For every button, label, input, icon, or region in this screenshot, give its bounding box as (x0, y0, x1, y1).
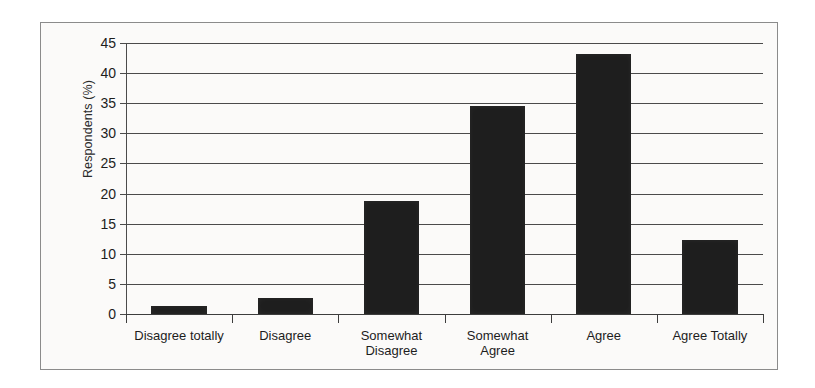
y-axis-title: Respondents (%) (81, 49, 101, 209)
y-axis-tick-label: 0 (108, 307, 116, 321)
y-axis-tick-label: 15 (100, 217, 116, 231)
x-axis-tick-label: Somewhat Disagree (338, 328, 444, 359)
bar (258, 298, 313, 314)
plot-area: 051015202530354045 Disagree totallyDisag… (126, 43, 763, 314)
bar (682, 240, 737, 314)
y-axis-tick-label: 40 (100, 66, 116, 80)
x-axis-tick-label: Agree (551, 328, 657, 343)
chart-screenshot: Respondents (%) 051015202530354045 Disag… (0, 0, 815, 388)
bar (576, 54, 631, 314)
y-axis-tick-label: 20 (100, 187, 116, 201)
x-axis-tick-label: Somewhat Agree (445, 328, 551, 359)
bar (151, 306, 206, 314)
x-axis-tick (551, 314, 552, 323)
y-axis-tick-label: 5 (108, 277, 116, 291)
x-axis-tick (445, 314, 446, 323)
x-axis-tick-label: Disagree totally (126, 328, 232, 343)
bar (364, 201, 419, 314)
x-axis-tick (126, 314, 127, 323)
x-axis-tick (338, 314, 339, 323)
y-axis-tick-label: 25 (100, 156, 116, 170)
bar (470, 106, 525, 314)
x-axis-tick (763, 314, 764, 323)
x-axis-tick (657, 314, 658, 323)
y-axis-tick-label: 45 (100, 36, 116, 50)
y-axis-tick-label: 30 (100, 126, 116, 140)
x-axis-tick-label: Agree Totally (657, 328, 763, 343)
x-axis-tick (232, 314, 233, 323)
x-axis-tick-label: Disagree (232, 328, 338, 343)
y-axis-tick-label: 10 (100, 247, 116, 261)
bars-group (126, 43, 763, 314)
chart-frame: Respondents (%) 051015202530354045 Disag… (40, 22, 778, 370)
y-axis-tick-label: 35 (100, 96, 116, 110)
